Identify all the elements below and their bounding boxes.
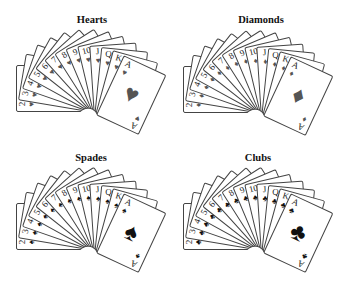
fan-title-spades: Spades <box>51 152 131 163</box>
card-corner-inverted: A♣ <box>295 250 311 270</box>
card-corner-inverted: A♦ <box>295 113 311 133</box>
fan-title-hearts: Hearts <box>52 14 132 25</box>
card-corner-inverted: A♠ <box>128 250 144 270</box>
card-corner-inverted: A♥ <box>128 112 144 132</box>
diamond-large-icon: ♦ <box>273 74 325 117</box>
fan-title-clubs: Clubs <box>218 152 298 163</box>
fan-title-diamonds: Diamonds <box>221 14 301 25</box>
spade-large-icon: ♠ <box>106 211 158 254</box>
heart-large-icon: ♥ <box>106 73 158 116</box>
club-large-icon: ♣ <box>273 211 325 254</box>
